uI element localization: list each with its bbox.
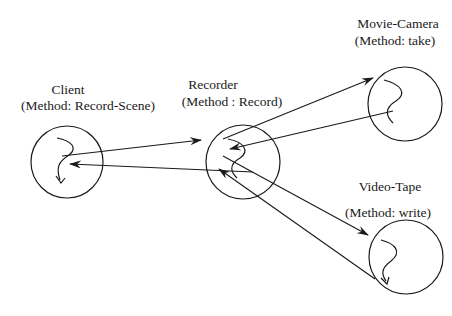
recorder-method-label: (Method : Record)	[182, 95, 282, 109]
video-tape-name-label: Video-Tape	[359, 180, 422, 194]
client-thread-icon	[57, 138, 73, 180]
arrow-movie-camera-to-recorder	[230, 111, 393, 149]
arrow-client-to-recorder	[62, 140, 201, 156]
client-node	[31, 126, 103, 198]
arrow-video-tape-to-recorder	[219, 169, 375, 279]
video-tape-node	[369, 220, 443, 294]
client-name-label: Client	[52, 83, 85, 97]
video-tape-circle	[369, 220, 443, 294]
recorder-thread-icon	[228, 139, 245, 178]
client-circle	[31, 126, 103, 198]
movie-camera-name-label: Movie-Camera	[357, 17, 439, 31]
recorder-node	[206, 125, 280, 199]
client-thread-arrowhead	[56, 176, 65, 183]
arrow-recorder-to-client	[70, 164, 253, 172]
client-method-label: (Method: Record-Scene)	[21, 99, 155, 113]
movie-camera-method-label: (Method: take)	[355, 34, 436, 48]
movie-camera-node	[368, 67, 442, 141]
recorder-name-label: Recorder	[188, 78, 237, 92]
video-tape-thread-icon	[381, 240, 397, 281]
movie-camera-circle	[368, 67, 442, 141]
video-tape-method-label: (Method: write)	[345, 206, 431, 220]
movie-camera-thread-icon	[384, 80, 402, 123]
recorder-circle	[206, 125, 280, 199]
